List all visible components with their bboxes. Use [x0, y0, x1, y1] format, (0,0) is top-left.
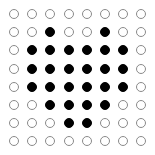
grid-cell-r0-c3[interactable] [64, 9, 74, 19]
grid-cell-r1-c4[interactable] [82, 27, 92, 37]
grid-cell-r4-c3[interactable] [64, 82, 74, 92]
grid-cell-r7-c3[interactable] [64, 136, 74, 146]
grid-cell-r0-c4[interactable] [82, 9, 92, 19]
grid-cell-r1-c2[interactable] [45, 27, 55, 37]
grid-cell-r0-c2[interactable] [45, 9, 55, 19]
grid-cell-r4-c1[interactable] [27, 82, 37, 92]
grid-cell-r4-c5[interactable] [100, 82, 110, 92]
grid-cell-r7-c2[interactable] [45, 136, 55, 146]
grid-cell-r2-c2[interactable] [45, 45, 55, 55]
grid-cell-r5-c1[interactable] [27, 100, 37, 110]
grid-cell-r4-c6[interactable] [118, 82, 128, 92]
grid-cell-r5-c0[interactable] [9, 100, 19, 110]
grid-cell-r2-c3[interactable] [64, 45, 74, 55]
grid-cell-r5-c3[interactable] [64, 100, 74, 110]
grid-cell-r5-c2[interactable] [45, 100, 55, 110]
grid-cell-r6-c4[interactable] [82, 118, 92, 128]
grid-cell-r7-c4[interactable] [82, 136, 92, 146]
grid-cell-r3-c2[interactable] [45, 64, 55, 74]
grid-cell-r2-c5[interactable] [100, 45, 110, 55]
grid-cell-r0-c5[interactable] [100, 9, 110, 19]
grid-cell-r6-c0[interactable] [9, 118, 19, 128]
grid-cell-r6-c7[interactable] [136, 118, 146, 128]
grid-cell-r6-c2[interactable] [45, 118, 55, 128]
grid-cell-r5-c5[interactable] [100, 100, 110, 110]
grid-cell-r6-c5[interactable] [100, 118, 110, 128]
grid-cell-r2-c6[interactable] [118, 45, 128, 55]
grid-cell-r1-c3[interactable] [64, 27, 74, 37]
grid-cell-r1-c7[interactable] [136, 27, 146, 37]
grid-cell-r4-c2[interactable] [45, 82, 55, 92]
grid-cell-r1-c6[interactable] [118, 27, 128, 37]
grid-cell-r0-c0[interactable] [9, 9, 19, 19]
grid-cell-r2-c4[interactable] [82, 45, 92, 55]
grid-cell-r0-c1[interactable] [27, 9, 37, 19]
grid-cell-r3-c1[interactable] [27, 64, 37, 74]
grid-cell-r2-c7[interactable] [136, 45, 146, 55]
grid-cell-r7-c7[interactable] [136, 136, 146, 146]
grid-cell-r3-c6[interactable] [118, 64, 128, 74]
grid-cell-r2-c0[interactable] [9, 45, 19, 55]
grid-cell-r0-c6[interactable] [118, 9, 128, 19]
grid-cell-r3-c0[interactable] [9, 64, 19, 74]
grid-cell-r2-c1[interactable] [27, 45, 37, 55]
grid-cell-r4-c0[interactable] [9, 82, 19, 92]
grid-cell-r7-c1[interactable] [27, 136, 37, 146]
grid-cell-r4-c7[interactable] [136, 82, 146, 92]
grid-cell-r0-c7[interactable] [136, 9, 146, 19]
grid-cell-r1-c0[interactable] [9, 27, 19, 37]
grid-cell-r3-c7[interactable] [136, 64, 146, 74]
grid-cell-r6-c6[interactable] [118, 118, 128, 128]
grid-cell-r5-c6[interactable] [118, 100, 128, 110]
grid-cell-r6-c3[interactable] [64, 118, 74, 128]
grid-cell-r3-c5[interactable] [100, 64, 110, 74]
dot-grid-board [0, 0, 155, 155]
grid-cell-r6-c1[interactable] [27, 118, 37, 128]
grid-cell-r1-c1[interactable] [27, 27, 37, 37]
grid-cell-r1-c5[interactable] [100, 27, 110, 37]
grid-cell-r3-c3[interactable] [64, 64, 74, 74]
grid-cell-r7-c6[interactable] [118, 136, 128, 146]
grid-cell-r5-c4[interactable] [82, 100, 92, 110]
grid-cell-r5-c7[interactable] [136, 100, 146, 110]
grid-cell-r7-c0[interactable] [9, 136, 19, 146]
grid-cell-r3-c4[interactable] [82, 64, 92, 74]
grid-cell-r4-c4[interactable] [82, 82, 92, 92]
grid-cell-r7-c5[interactable] [100, 136, 110, 146]
